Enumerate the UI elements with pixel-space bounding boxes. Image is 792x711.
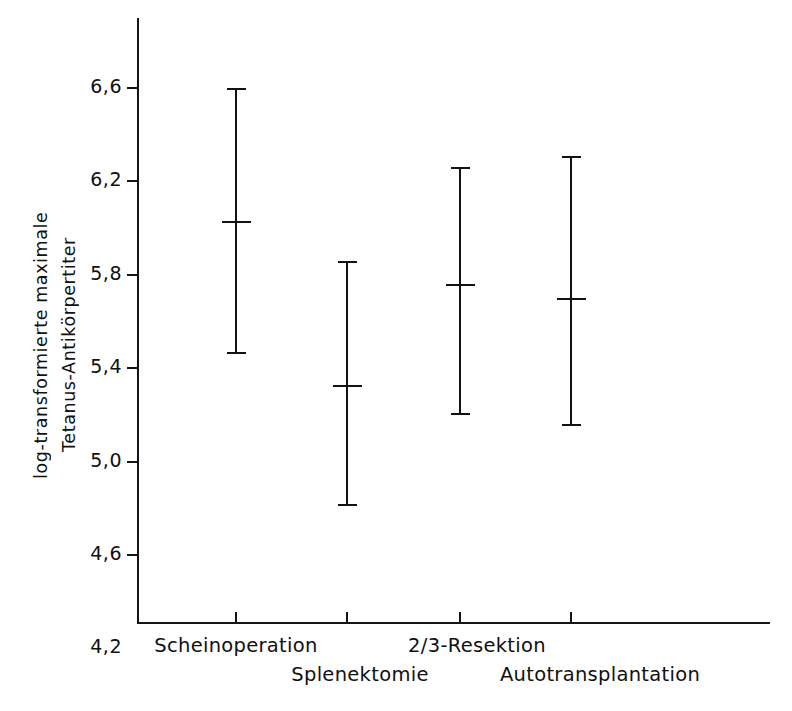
y-axis-tick [127,367,138,369]
y-axis-tick [127,180,138,182]
error-bar-lower-cap [227,352,246,354]
y-axis-tick-label: 4,2 [78,635,122,657]
y-axis-label: log-transformierte maximale Tetanus-Anti… [28,150,84,540]
y-axis-tick-label: 6,6 [78,75,122,97]
y-axis-label-line-2: Tetanus-Antikörpertiter [56,150,82,540]
y-axis-tick-label: 6,2 [78,168,122,190]
error-bar-lower-cap [451,413,470,415]
y-axis-tick-label: 4,6 [78,542,122,564]
error-bar-upper-cap [227,88,246,90]
y-axis-tick [127,87,138,89]
x-axis-category-label: 2/3-Resektion [408,634,546,657]
error-bar-upper-cap [338,261,357,263]
error-bar-mean-marker [446,284,475,286]
error-bar-chart: 6,66,25,85,45,04,64,2 ScheinoperationSpl… [0,0,792,711]
error-bar-stem [235,88,237,352]
error-bar-stem [570,156,572,425]
y-axis-line [137,18,139,624]
x-axis-tick [459,612,461,623]
x-axis-category-label: Splenektomie [291,663,428,686]
error-bar-lower-cap [562,424,581,426]
error-bar-upper-cap [451,167,470,169]
error-bar-lower-cap [338,504,357,506]
x-axis-tick [570,612,572,623]
x-axis-tick [346,612,348,623]
x-axis-category-label: Scheinoperation [154,634,317,657]
y-axis-label-line-1: log-transformierte maximale [28,150,54,540]
error-bar-mean-marker [222,221,251,223]
y-axis-tick [127,461,138,463]
error-bar-stem [346,261,348,504]
y-axis-tick [127,274,138,276]
error-bar-mean-marker [333,385,362,387]
error-bar-upper-cap [562,156,581,158]
y-axis-tick-label: 5,0 [78,449,122,471]
error-bar-stem [459,167,461,412]
error-bar-mean-marker [557,298,586,300]
y-axis-tick [127,554,138,556]
x-axis-tick [235,612,237,623]
y-axis-tick-label: 5,8 [78,262,122,284]
x-axis-category-label: Autotransplantation [500,663,700,686]
x-axis-line [137,622,770,624]
y-axis-tick-label: 5,4 [78,355,122,377]
